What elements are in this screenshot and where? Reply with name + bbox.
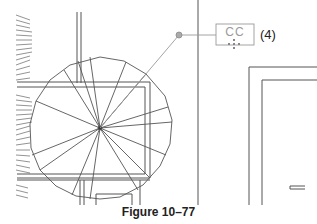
callout-anchor-dot	[176, 32, 182, 38]
lower-walls	[80, 180, 140, 205]
vertical-wall-top	[77, 12, 81, 83]
callout-label: (4)	[260, 27, 276, 42]
stair-enclosure	[17, 82, 150, 180]
figure-caption: Figure 10–77	[0, 205, 317, 219]
callout-tag-text: CC	[216, 25, 254, 39]
room-outline	[249, 67, 317, 205]
hatched-wall	[16, 15, 32, 198]
